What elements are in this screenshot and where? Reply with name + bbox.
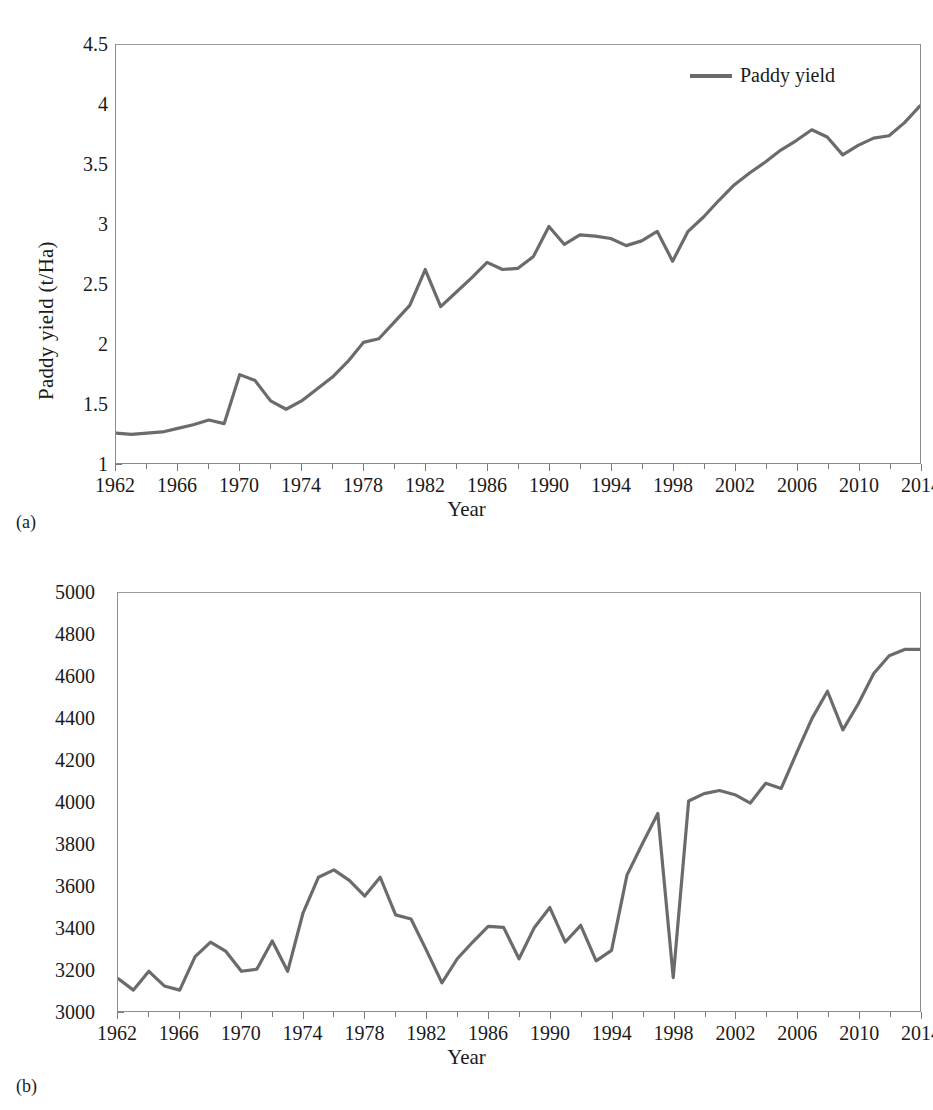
x-tick-mark [303,1012,304,1019]
x-tick-mark [890,1012,891,1017]
x-tick-mark [859,1012,860,1019]
y-tick-label: 3600 [55,876,95,896]
x-tick-label: 1998 [653,474,693,497]
y-tick-label: 3400 [55,918,95,938]
x-tick-mark [270,464,271,469]
x-tick-label: 1974 [281,474,321,497]
x-tick-mark [394,464,395,469]
data-line-rice-area [118,649,920,990]
legend-swatch-icon [690,74,732,78]
y-tick-label: 1.5 [83,394,108,414]
y-tick-label: 4.5 [83,34,108,54]
x-tick-mark [643,1012,644,1017]
x-tick-label: 1962 [97,1022,137,1045]
x-tick-mark [859,464,860,471]
x-tick-label: 1994 [592,1022,632,1045]
x-tick-mark [797,1012,798,1019]
x-tick-mark [301,464,302,471]
x-tick-mark [117,1012,118,1019]
y-tick-label: 5000 [55,582,95,602]
x-tick-mark [612,1012,613,1019]
x-tick-label: 1994 [591,474,631,497]
x-tick-mark [272,1012,273,1017]
x-tick-mark [425,464,426,471]
x-tick-label: 1978 [344,1022,384,1045]
x-tick-mark [115,464,116,471]
x-tick-mark [177,464,178,471]
x-tick-mark [332,464,333,469]
x-tick-label: 1966 [159,1022,199,1045]
x-tick-mark [828,1012,829,1017]
x-tick-label: 2010 [839,474,879,497]
y-tick-label: 2.5 [83,274,108,294]
x-axis-b: 1962196619701974197819821986199019941998… [117,1012,921,1020]
line-chart-b [118,593,920,1011]
x-tick-mark [580,464,581,469]
y-tick-label: 4200 [55,750,95,770]
x-tick-label: 2010 [839,1022,879,1045]
x-tick-mark [735,1012,736,1019]
x-tick-mark [426,1012,427,1019]
x-tick-label: 1970 [219,474,259,497]
x-tick-mark [518,464,519,469]
data-line-paddy-yield [116,106,920,434]
x-tick-mark [488,1012,489,1019]
x-tick-label: 1990 [530,1022,570,1045]
y-tick-label: 4600 [55,666,95,686]
y-tick-label: 2 [98,334,108,354]
x-tick-label: 1990 [529,474,569,497]
x-tick-mark [364,1012,365,1019]
x-tick-mark [208,464,209,469]
x-axis-title-b: Year [0,1045,933,1070]
y-tick-label: 4800 [55,624,95,644]
x-tick-mark [519,1012,520,1017]
x-tick-label: 1970 [221,1022,261,1045]
x-tick-mark [828,464,829,469]
x-tick-mark [766,1012,767,1017]
x-tick-mark [333,1012,334,1017]
x-tick-mark [179,1012,180,1019]
x-tick-label: 1978 [343,474,383,497]
x-tick-mark [457,1012,458,1017]
x-tick-mark [487,464,488,471]
x-tick-mark [210,1012,211,1017]
x-tick-mark [611,464,612,471]
x-tick-label: 2002 [715,1022,755,1045]
x-tick-mark [550,1012,551,1019]
x-tick-label: 1986 [468,1022,508,1045]
y-tick-label: 4 [98,94,108,114]
y-tick-label: 4000 [55,792,95,812]
x-tick-label: 1962 [95,474,135,497]
y-tick-label: 1 [98,454,108,474]
y-tick-label: 3800 [55,834,95,854]
x-tick-mark [735,464,736,471]
figure-rice-area: Rice area (k Ha) 30003200340036003800400… [0,548,933,1110]
x-tick-mark [363,464,364,471]
legend-label-paddy-yield: Paddy yield [740,64,835,87]
x-tick-mark [705,1012,706,1017]
x-tick-label: 2002 [715,474,755,497]
plot-area-a [115,44,921,464]
x-tick-mark [797,464,798,471]
x-tick-mark [239,464,240,471]
y-axis-tick-labels-a: 11.522.533.544.5 [46,0,108,500]
x-tick-label: 1974 [283,1022,323,1045]
x-tick-label: 1998 [654,1022,694,1045]
x-axis-title-a: Year [0,497,933,522]
panel-b: Rice area (k Ha) 30003200340036003800400… [0,548,933,1063]
subfigure-caption-b: (b) [16,1076,37,1097]
x-tick-mark [395,1012,396,1017]
x-tick-mark [241,1012,242,1019]
x-tick-label: 1982 [405,474,445,497]
y-tick-label: 3 [98,214,108,234]
x-tick-label: 2006 [777,474,817,497]
x-tick-mark [146,464,147,469]
x-tick-mark [674,1012,675,1019]
x-tick-mark [766,464,767,469]
x-tick-mark [704,464,705,469]
line-chart-a [116,45,920,463]
y-axis-tick-labels-b: 3000320034003600380040004200440046004800… [33,548,95,1063]
y-tick-label: 4400 [55,708,95,728]
y-tick-label: 3000 [55,1002,95,1022]
panel-a: Paddy yield (t/Ha) 11.522.533.544.5 Padd… [0,0,933,500]
